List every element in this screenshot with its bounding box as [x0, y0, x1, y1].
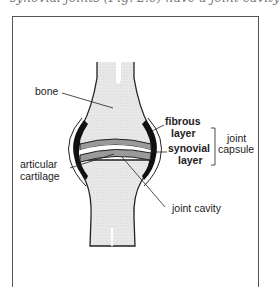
label-fibrous: fibrous — [165, 115, 201, 127]
capsule-bracket — [211, 128, 215, 165]
label-bone: bone — [35, 85, 59, 97]
label-capsule: capsule — [218, 143, 254, 155]
label-synovial: synovial — [168, 142, 210, 154]
upper-bone — [79, 62, 151, 146]
label-cartilage: cartilage — [20, 170, 60, 182]
bone-notch — [116, 62, 121, 84]
lower-bone — [80, 160, 150, 246]
label-joint-cavity: joint cavity — [171, 202, 222, 214]
label-articular: articular — [20, 158, 58, 170]
label-synovial-2: layer — [178, 154, 203, 166]
label-fibrous-2: layer — [171, 127, 196, 139]
lower-bone-gap — [111, 228, 113, 246]
